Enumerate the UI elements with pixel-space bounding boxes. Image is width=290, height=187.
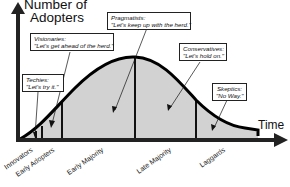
callout-role: Techies:: [26, 76, 60, 83]
callout-quote: "Let's keep up with the herd.": [111, 21, 191, 28]
callout-quote: "Let's get ahead of the herd.": [34, 42, 114, 49]
x-axis-label: Time: [258, 118, 284, 132]
callout-quote: "No Way.": [216, 92, 244, 99]
y-axis-label-line2: Adopters: [24, 11, 87, 24]
callout-quote: "Let's try it.": [26, 83, 58, 90]
callout-role: Conservatives:: [183, 45, 223, 52]
callout-role: Pragmatists:: [111, 14, 187, 21]
y-axis-label: Number of Adopters: [24, 0, 87, 24]
callout-conservatives: Conservatives: "Let's hold on.": [179, 43, 227, 61]
callout-role: Skeptics:: [216, 85, 243, 92]
y-axis-arrow-icon: [11, 2, 25, 14]
callout-visionaries: Visionaries: "Let's get ahead of the her…: [30, 33, 114, 51]
callout-role: Visionaries:: [34, 35, 110, 42]
callout-techies: Techies: "Let's try it.": [22, 74, 64, 92]
x-axis-arrow-icon: [274, 133, 288, 147]
callout-skeptics: Skeptics: "No Way.": [212, 83, 247, 101]
callout-quote: "Let's hold on.": [183, 52, 224, 59]
callout-pragmatists: Pragmatists: "Let's keep up with the her…: [107, 12, 191, 30]
